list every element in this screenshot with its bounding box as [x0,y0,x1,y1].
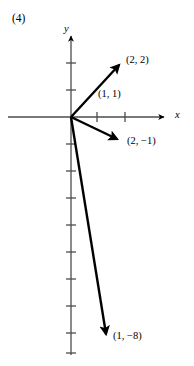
y-axis [66,36,76,355]
vector-2-minus-1 [71,117,117,139]
vector-1-minus-8 [71,117,106,334]
vector-label-1-1: (1, 1) [98,89,121,100]
vector-label-2-2: (2, 2) [126,55,149,66]
coordinate-plane-svg [0,0,194,366]
x-axis [8,112,164,122]
vector-label-2-minus-1: (2, −1) [127,136,156,147]
y-axis-label: y [64,24,69,35]
problem-number-label: (4) [12,13,25,25]
x-axis-label: x [175,110,180,121]
vector-arrows [71,65,119,334]
vector-label-1-minus-8: (1, −8) [113,331,142,342]
vector-diagram-figure: (4) (2, 2) (1, 1) (2, −1) (1, −8) x y [0,0,194,366]
